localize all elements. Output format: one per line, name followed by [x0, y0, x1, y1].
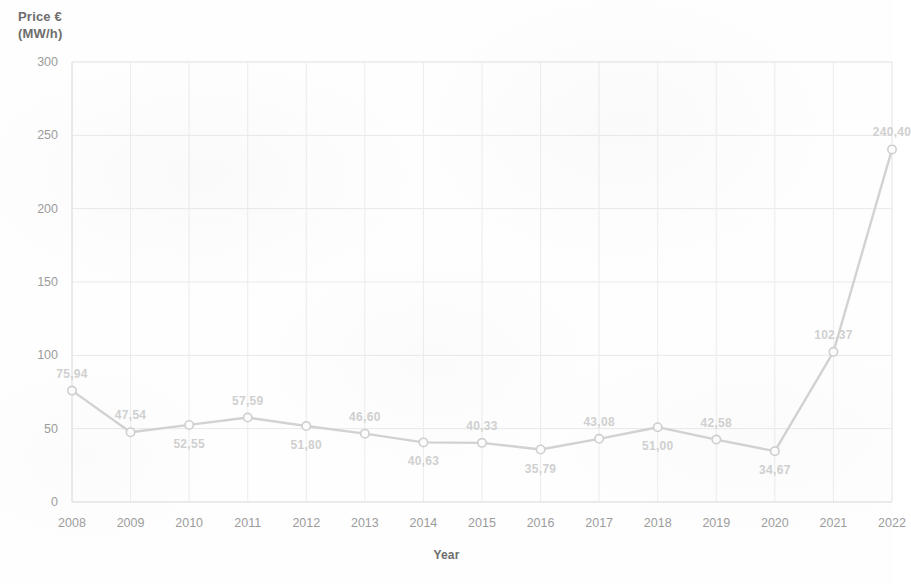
data-point-label: 40,33	[466, 419, 498, 433]
x-tick-label: 2019	[702, 516, 730, 530]
y-tick-label: 300	[8, 55, 58, 69]
y-tick-label: 250	[8, 128, 58, 142]
data-point-label: 40,63	[408, 454, 440, 468]
data-point-label: 46,60	[349, 410, 381, 424]
data-point-marker	[478, 439, 486, 447]
data-point-marker	[302, 422, 310, 430]
y-axis-title-line2: (MW/h)	[18, 26, 63, 41]
data-point-label: 42,58	[701, 416, 733, 430]
y-axis-title: Price €(MW/h)	[18, 8, 63, 42]
data-point-marker	[185, 421, 193, 429]
y-tick-label: 200	[8, 202, 58, 216]
data-point-marker	[712, 435, 720, 443]
x-tick-label: 2017	[585, 516, 613, 530]
data-point-marker	[829, 348, 837, 356]
data-point-marker	[888, 145, 896, 153]
y-tick-label: 0	[8, 495, 58, 509]
x-tick-label: 2016	[527, 516, 555, 530]
data-point-label: 43,08	[583, 415, 615, 429]
data-point-label: 34,67	[759, 463, 791, 477]
x-tick-label: 2015	[468, 516, 496, 530]
x-axis-title: Year	[0, 548, 893, 562]
y-axis-title-line1: Price €	[18, 9, 62, 24]
y-tick-label: 150	[8, 275, 58, 289]
x-tick-label: 2013	[351, 516, 379, 530]
x-tick-label: 2020	[761, 516, 789, 530]
data-point-label: 57,59	[232, 394, 264, 408]
y-tick-label: 100	[8, 348, 58, 362]
data-point-label: 52,55	[173, 437, 205, 451]
x-tick-label: 2018	[644, 516, 672, 530]
x-tick-label: 2022	[878, 516, 906, 530]
data-point-label: 47,54	[115, 408, 147, 422]
x-tick-label: 2008	[58, 516, 86, 530]
data-point-marker	[771, 447, 779, 455]
x-tick-label: 2010	[175, 516, 203, 530]
x-tick-label: 2012	[292, 516, 320, 530]
data-point-marker	[419, 438, 427, 446]
data-point-label: 35,79	[525, 462, 557, 476]
y-tick-label: 50	[8, 422, 58, 436]
data-point-marker	[595, 435, 603, 443]
x-tick-label: 2011	[234, 516, 261, 530]
data-point-marker	[654, 423, 662, 431]
data-point-label: 75,94	[56, 367, 88, 381]
data-point-marker	[361, 429, 369, 437]
data-point-marker	[244, 413, 252, 421]
x-tick-label: 2009	[117, 516, 145, 530]
data-point-marker	[68, 386, 76, 394]
data-point-marker	[536, 445, 544, 453]
data-point-label: 240,40	[873, 125, 911, 139]
x-tick-label: 2014	[410, 516, 438, 530]
data-point-marker	[126, 428, 134, 436]
data-point-label: 102,37	[814, 328, 853, 342]
data-point-label: 51,00	[642, 439, 674, 453]
data-point-label: 51,80	[291, 438, 323, 452]
x-tick-label: 2021	[820, 516, 848, 530]
